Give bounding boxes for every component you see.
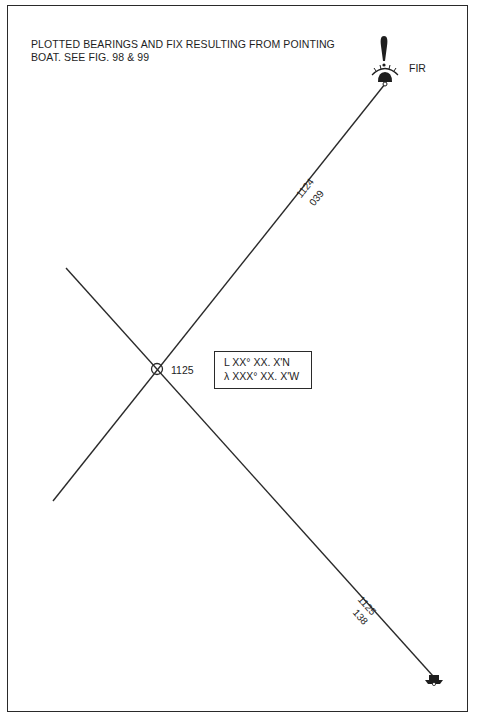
- fix-time-label: 1125: [171, 364, 194, 376]
- boat-icon: [425, 675, 443, 686]
- bell-buoy-icon: [372, 36, 398, 86]
- bearing-line-138: [66, 268, 433, 676]
- fix-latitude: L XX° XX. X'N: [224, 355, 311, 369]
- buoy-label: FIR: [409, 62, 426, 74]
- fix-longitude: λ XXX° XX. X'W: [224, 369, 311, 383]
- fix-position-box: L XX° XX. X'N λ XXX° XX. X'W: [214, 351, 312, 389]
